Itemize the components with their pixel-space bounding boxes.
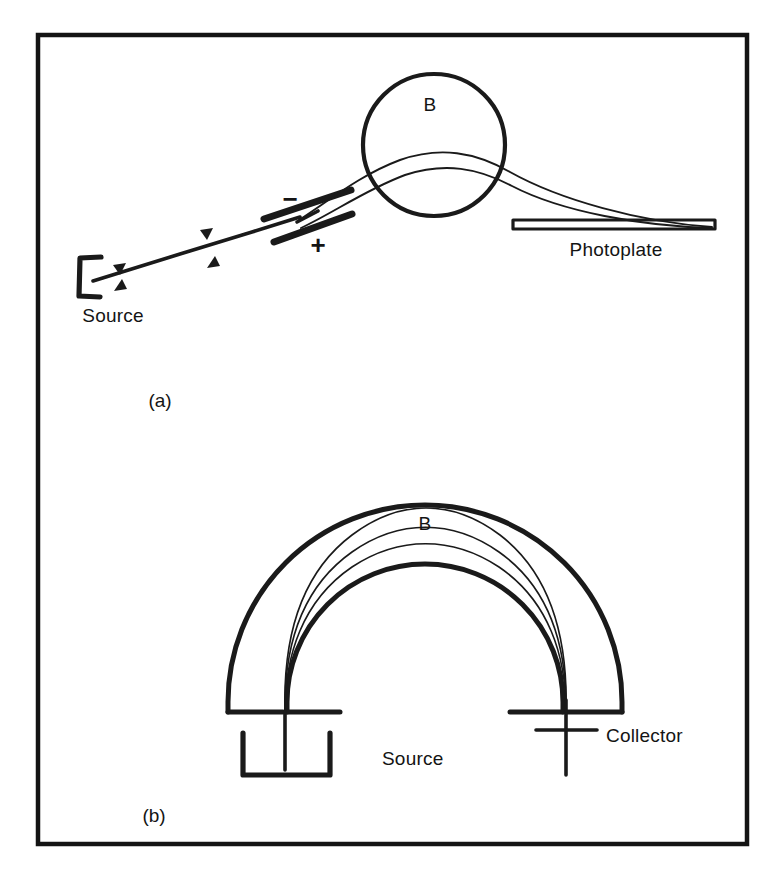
negative-electrode-label: − bbox=[282, 184, 297, 214]
panel-label-a: (a) bbox=[148, 390, 171, 411]
source-label-b: Source bbox=[382, 748, 443, 769]
figure-root: − + B Photoplate Source (a) bbox=[0, 0, 778, 872]
source-label-a: Source bbox=[82, 305, 143, 326]
mass-spectrometer-figure: − + B Photoplate Source (a) bbox=[0, 0, 778, 872]
field-label-b: B bbox=[419, 513, 432, 534]
photoplate-label: Photoplate bbox=[570, 239, 663, 260]
field-label-a: B bbox=[424, 94, 437, 115]
positive-electrode-label: + bbox=[310, 230, 325, 260]
panel-label-b: (b) bbox=[142, 805, 165, 826]
collector-label-b: Collector bbox=[606, 725, 683, 746]
